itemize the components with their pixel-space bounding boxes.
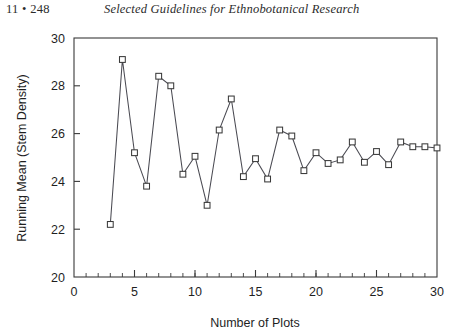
x-tick-label: 5 (131, 285, 138, 299)
data-point-marker (265, 176, 271, 182)
data-point-marker (374, 149, 380, 155)
x-axis-title: Number of Plots (210, 316, 300, 330)
series-markers (107, 57, 440, 228)
x-tick-label: 0 (71, 285, 78, 299)
y-axis-tick-labels: 202224262830 (51, 32, 65, 285)
data-point-marker (313, 150, 319, 156)
data-point-marker (132, 150, 138, 156)
data-point-marker (192, 153, 198, 159)
x-tick-label: 25 (370, 285, 384, 299)
data-point-marker (156, 73, 162, 79)
y-tick-label: 30 (51, 32, 65, 46)
y-tick-label: 22 (51, 223, 65, 237)
folio-number: 11 • 248 (6, 2, 50, 17)
page-running-header: 11 • 248 Selected Guidelines for Ethnobo… (0, 0, 453, 22)
data-point-marker (228, 96, 234, 102)
line-chart: 202224262830 051015202530 Number of Plot… (0, 22, 453, 336)
data-point-marker (386, 162, 392, 168)
data-point-marker (434, 145, 440, 151)
data-point-marker (362, 159, 368, 165)
x-tick-label: 15 (249, 285, 263, 299)
y-tick-label: 26 (51, 127, 65, 141)
data-point-marker (216, 127, 222, 133)
data-point-marker (398, 139, 404, 145)
data-point-marker (144, 183, 150, 189)
data-point-marker (253, 156, 259, 162)
y-tick-label: 20 (51, 271, 65, 285)
data-point-marker (289, 133, 295, 139)
data-point-marker (277, 127, 283, 133)
data-point-marker (120, 57, 126, 63)
data-point-marker (422, 144, 428, 150)
data-point-marker (204, 202, 210, 208)
y-axis-ticks (74, 86, 80, 229)
x-tick-label: 30 (430, 285, 444, 299)
data-point-marker (325, 161, 331, 167)
data-point-marker (410, 144, 416, 150)
data-point-marker (107, 222, 113, 228)
running-title: Selected Guidelines for Ethnobotanical R… (104, 2, 359, 17)
x-tick-label: 10 (188, 285, 202, 299)
y-axis-title: Running Mean (Stem Density) (15, 74, 29, 241)
figure-running-mean-chart: 202224262830 051015202530 Number of Plot… (0, 22, 453, 336)
y-tick-label: 24 (51, 175, 65, 189)
y-tick-label: 28 (51, 79, 65, 93)
series-line-running-mean (110, 60, 437, 225)
data-point-marker (349, 139, 355, 145)
data-point-marker (337, 157, 343, 163)
x-axis-tick-labels: 051015202530 (71, 285, 444, 299)
x-tick-label: 20 (309, 285, 323, 299)
data-point-marker (301, 168, 307, 174)
data-point-marker (241, 174, 247, 180)
data-point-marker (180, 171, 186, 177)
data-point-marker (168, 83, 174, 89)
